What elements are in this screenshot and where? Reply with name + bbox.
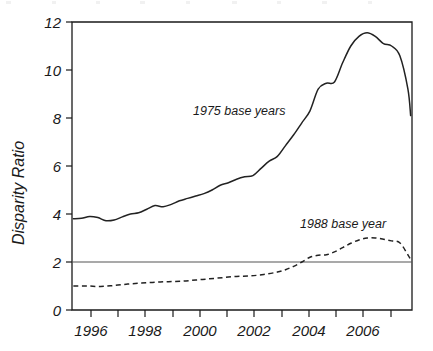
y-tick-label-4: 4 [53,206,61,223]
x-tick-label-2000: 2000 [182,322,217,339]
y-axis-ticks [66,22,72,310]
y-axis-tick-labels: 0 2 4 6 8 10 12 [44,14,61,319]
y-tick-label-0: 0 [53,302,62,319]
x-axis-tick-labels: 1996 1998 2000 2002 2004 2006 [74,322,380,339]
disparity-ratio-line-chart: Disparity Ratio 0 2 4 6 8 10 12 [0,0,433,351]
y-tick-label-10: 10 [44,62,61,79]
x-tick-label-2006: 2006 [345,322,380,339]
annotation-1988-base-year: 1988 base year [300,217,387,231]
y-tick-label-2: 2 [52,254,62,271]
y-tick-label-8: 8 [53,110,62,127]
series-1975-base-years [73,33,410,221]
plot-frame [72,22,412,310]
x-tick-label-2002: 2002 [236,322,271,339]
y-tick-label-12: 12 [44,14,61,31]
top-edge-scan-artifact [6,1,372,4]
annotation-1975-base-years: 1975 base years [193,104,285,118]
x-tick-label-1996: 1996 [74,322,108,339]
y-tick-label-6: 6 [53,158,62,175]
x-axis-ticks [91,310,391,317]
y-axis-title: Disparity Ratio [10,141,27,245]
x-tick-label-2004: 2004 [291,322,325,339]
x-tick-label-1998: 1998 [128,322,162,339]
